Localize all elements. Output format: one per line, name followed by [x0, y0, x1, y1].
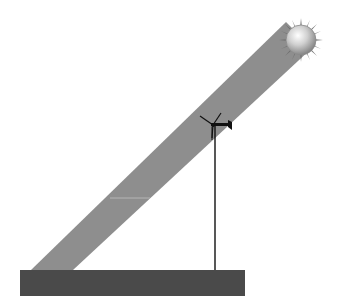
sun-icon	[279, 18, 323, 62]
light-beam	[31, 22, 312, 270]
diagram-svg	[0, 0, 340, 306]
diagram-canvas	[0, 0, 340, 306]
ground-bar	[20, 270, 245, 296]
